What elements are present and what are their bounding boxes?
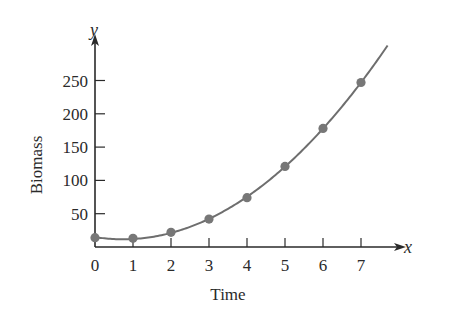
axis-labels: y x Time Biomass	[27, 20, 412, 304]
y-tick-label: 150	[63, 138, 89, 157]
x-axis-variable: x	[403, 237, 412, 257]
biomass-chart: 0123456750100150200250 y x Time Biomass	[0, 0, 450, 317]
x-tick-label: 0	[91, 256, 100, 275]
data-point	[90, 233, 99, 242]
x-tick-label: 5	[281, 256, 290, 275]
y-axis-variable: y	[88, 20, 98, 40]
x-tick-label: 7	[357, 256, 366, 275]
y-axis-title: Biomass	[27, 136, 46, 195]
x-tick-label: 6	[319, 256, 328, 275]
data-point	[166, 228, 175, 237]
x-axis-title: Time	[210, 285, 245, 304]
fit-curve	[95, 46, 388, 240]
x-tick-label: 1	[129, 256, 138, 275]
y-tick-label: 250	[63, 72, 89, 91]
data-point	[128, 234, 137, 243]
data-point	[356, 78, 365, 87]
fit-curve-path	[95, 46, 388, 240]
data-point	[280, 162, 289, 171]
x-tick-label: 2	[167, 256, 176, 275]
y-tick-label: 200	[63, 105, 89, 124]
data-points	[90, 78, 365, 243]
y-tick-label: 50	[71, 205, 88, 224]
x-tick-label: 3	[205, 256, 214, 275]
x-tick-label: 4	[243, 256, 252, 275]
y-tick-label: 100	[63, 171, 89, 190]
data-point	[318, 124, 327, 133]
data-point	[204, 214, 213, 223]
data-point	[242, 193, 251, 202]
